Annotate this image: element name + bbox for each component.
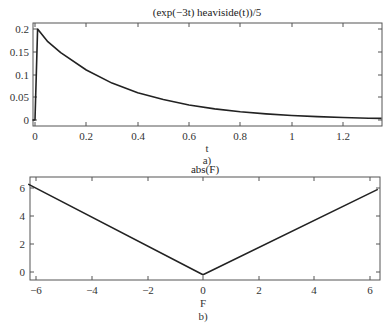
plot-b-yticks bbox=[30, 188, 380, 272]
plot-b-xtick-labels: −6 −4 −2 0 2 4 6 bbox=[30, 284, 373, 296]
ytick-label: 0 bbox=[20, 266, 26, 278]
plot-a-xtick-labels: 0 0.2 0.4 0.6 0.8 1 1.2 bbox=[32, 130, 350, 142]
ytick-label: 4 bbox=[20, 210, 26, 222]
plot-a-frame bbox=[33, 23, 382, 126]
plot-b-line bbox=[28, 184, 378, 275]
xtick-label: 6 bbox=[367, 284, 373, 296]
ytick-label: 2 bbox=[20, 238, 26, 250]
plot-a-xticks bbox=[35, 23, 343, 126]
plot-a: (exp(−3t) heaviside(t))/5 0 0.2 0.4 0.6 … bbox=[10, 6, 382, 167]
xtick-label: 0.2 bbox=[79, 130, 93, 142]
ytick-label: 0.2 bbox=[15, 23, 29, 35]
plot-a-ytick-labels: 0 0.05 0.1 0.15 0.2 bbox=[10, 23, 30, 126]
xtick-label: 0.6 bbox=[182, 130, 196, 142]
plot-b-caption: b) bbox=[198, 310, 208, 323]
xtick-label: 2 bbox=[256, 284, 262, 296]
plot-b-title: abs(F) bbox=[191, 163, 219, 176]
xtick-label: 0 bbox=[200, 284, 206, 296]
xtick-label: 0.8 bbox=[233, 130, 247, 142]
xtick-label: −4 bbox=[86, 284, 98, 296]
ytick-label: 0 bbox=[24, 114, 30, 126]
plot-b: abs(F) −6 −4 −2 0 2 4 6 0 2 bbox=[20, 163, 381, 323]
plot-a-xlabel: t bbox=[205, 142, 208, 154]
plot-a-title: (exp(−3t) heaviside(t))/5 bbox=[153, 6, 262, 19]
xtick-label: 1.2 bbox=[336, 130, 350, 142]
ytick-label: 0.15 bbox=[10, 46, 30, 58]
xtick-label: 4 bbox=[311, 284, 317, 296]
xtick-label: −6 bbox=[30, 284, 42, 296]
xtick-label: 0.4 bbox=[131, 130, 145, 142]
plot-a-yticks bbox=[33, 29, 382, 120]
plot-b-xticks bbox=[36, 177, 370, 280]
xtick-label: −2 bbox=[142, 284, 154, 296]
plot-b-ytick-labels: 0 2 4 6 bbox=[20, 182, 26, 278]
plot-b-frame bbox=[30, 177, 380, 280]
ytick-label: 0.05 bbox=[10, 91, 30, 103]
plot-a-line bbox=[32, 29, 381, 120]
ytick-label: 0.1 bbox=[15, 69, 29, 81]
plot-b-xlabel: F bbox=[200, 297, 206, 309]
xtick-label: 1 bbox=[289, 130, 295, 142]
figure: (exp(−3t) heaviside(t))/5 0 0.2 0.4 0.6 … bbox=[0, 0, 392, 332]
xtick-label: 0 bbox=[32, 130, 38, 142]
ytick-label: 6 bbox=[20, 182, 26, 194]
